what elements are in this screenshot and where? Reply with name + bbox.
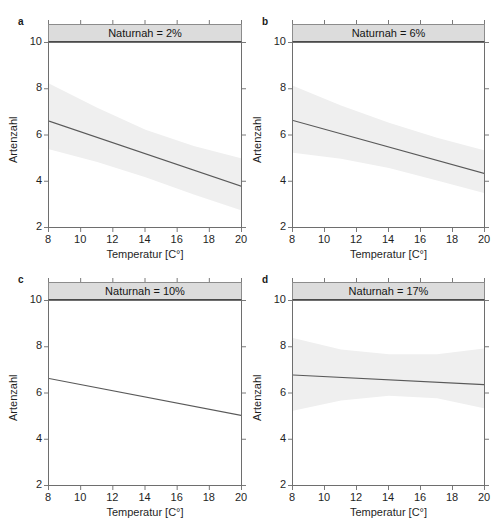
panel-b-xtick-20: 20 (470, 234, 495, 245)
panel-c-xtick-14: 14 (131, 492, 159, 503)
panel-letter-a: a (18, 16, 24, 27)
panel-a-xtick-8: 8 (34, 234, 62, 245)
panel-letter-c: c (18, 274, 24, 285)
panel-y-ticks-right-d (485, 300, 490, 486)
panel-y-ticks-d (288, 300, 293, 486)
panel-strip-b: Naturnah = 6% (292, 24, 485, 42)
panel-c-ytick-2: 2 (14, 479, 42, 490)
panel-letter-b: b (262, 16, 268, 27)
panel-a-ytick-2: 2 (14, 221, 42, 232)
panel-y-ticks-c (44, 300, 49, 486)
panel-a-ytick-4: 4 (14, 175, 42, 186)
panel-c-ytick-10: 10 (14, 294, 42, 305)
panel-c-xtick-16: 16 (163, 492, 191, 503)
panel-top-ticks-c (48, 278, 241, 282)
panel-d-xtick-18: 18 (438, 492, 466, 503)
panel-strip-label-c: Naturnah = 10% (105, 286, 185, 297)
panel-a-xtick-10: 10 (66, 234, 94, 245)
panel-d-xtick-8: 8 (278, 492, 306, 503)
panel-y-ticks-b (288, 42, 293, 228)
panel-a-xtick-14: 14 (131, 234, 159, 245)
panel-c-xtick-18: 18 (195, 492, 223, 503)
panel-strip-d: Naturnah = 17% (292, 282, 485, 300)
panel-strip-a: Naturnah = 2% (48, 24, 242, 42)
panel-b-ytick-8: 8 (258, 82, 286, 93)
panel-b-yaxis-title: Artenzahl (252, 116, 263, 162)
panel-d-xaxis-title: Temperatur [C°] (292, 507, 485, 518)
panel-b-xaxis-title: Temperatur [C°] (292, 249, 485, 260)
panel-a-xtick-12: 12 (98, 234, 126, 245)
panel-b-xtick-18: 18 (438, 234, 466, 245)
panel-strip-label-a: Naturnah = 2% (108, 28, 182, 39)
panel-b-xtick-16: 16 (406, 234, 434, 245)
panel-plot-area-c (48, 300, 242, 486)
panel-d-xtick-20: 20 (470, 492, 495, 503)
panel-b-xtick-8: 8 (278, 234, 306, 245)
panel-d-xtick-14: 14 (374, 492, 402, 503)
panel-d-yaxis-title: Artenzahl (252, 374, 263, 420)
panel-y-ticks-right-b (485, 42, 490, 228)
panel-d-ytick-8: 8 (258, 340, 286, 351)
panel-b-xtick-14: 14 (374, 234, 402, 245)
panel-c-xaxis-title: Temperatur [C°] (48, 507, 242, 518)
panel-c-xtick-12: 12 (98, 492, 126, 503)
panel-b-ytick-2: 2 (258, 221, 286, 232)
panel-c-xtick-10: 10 (66, 492, 94, 503)
panel-c-xtick-20: 20 (227, 492, 255, 503)
panel-strip-label-b: Naturnah = 6% (352, 28, 426, 39)
panel-a-ytick-8: 8 (14, 82, 42, 93)
panel-top-ticks-d (292, 278, 484, 282)
panel-d-ytick-10: 10 (258, 294, 286, 305)
panel-d-ytick-2: 2 (258, 479, 286, 490)
panel-y-ticks-right-a (242, 42, 247, 228)
panel-b-xtick-10: 10 (310, 234, 338, 245)
panel-a-xtick-20: 20 (227, 234, 255, 245)
panel-a-xtick-16: 16 (163, 234, 191, 245)
panel-d-xtick-16: 16 (406, 492, 434, 503)
panel-plot-area-a (48, 42, 242, 228)
panel-plot-area-d (292, 300, 485, 486)
panel-a-ytick-10: 10 (14, 36, 42, 47)
panel-a-xaxis-title: Temperatur [C°] (48, 249, 242, 260)
panel-strip-c: Naturnah = 10% (48, 282, 242, 300)
panel-c-ytick-8: 8 (14, 340, 42, 351)
figure-panel-grid: aNaturnah = 2%2468108101214161820Tempera… (0, 0, 495, 520)
panel-d-ytick-4: 4 (258, 433, 286, 444)
panel-top-ticks-a (48, 20, 241, 24)
panel-c-ytick-4: 4 (14, 433, 42, 444)
panel-letter-d: d (262, 274, 268, 285)
panel-a-yaxis-title: Artenzahl (8, 116, 19, 162)
panel-strip-label-d: Naturnah = 17% (349, 286, 429, 297)
panel-a-xtick-18: 18 (195, 234, 223, 245)
panel-plot-area-b (292, 42, 485, 228)
panel-d-xtick-10: 10 (310, 492, 338, 503)
panel-c-yaxis-title: Artenzahl (8, 374, 19, 420)
panel-c-xtick-8: 8 (34, 492, 62, 503)
panel-b-ytick-4: 4 (258, 175, 286, 186)
panel-y-ticks-a (44, 42, 49, 228)
panel-top-ticks-b (292, 20, 484, 24)
panel-d-xtick-12: 12 (342, 492, 370, 503)
panel-b-xtick-12: 12 (342, 234, 370, 245)
panel-b-ytick-10: 10 (258, 36, 286, 47)
panel-y-ticks-right-c (242, 300, 247, 486)
